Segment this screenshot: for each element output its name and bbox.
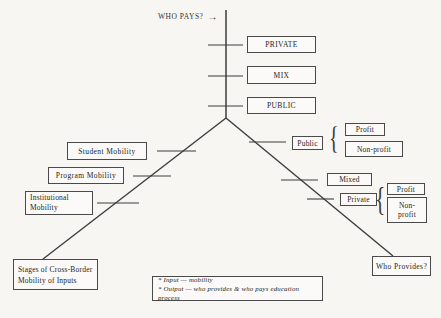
private-profit-box: Profit [387, 183, 425, 195]
who-pays-label: WHO PAYS? [158, 12, 203, 21]
private-nonprofit-box: Non-profit [387, 197, 427, 223]
public-nonprofit-box: Non-profit [345, 141, 403, 157]
legend-note-box: * Input — mobility * Output — who provid… [152, 276, 323, 301]
legend-line-input: * Input — mobility [158, 275, 213, 284]
who-pays-title: WHO PAYS? → [158, 11, 222, 22]
diagram-canvas: WHO PAYS? → PRIVATE MIX PUBLIC Student M… [0, 0, 441, 318]
right-arrow-icon: → [207, 11, 217, 22]
public-profit-box: Profit [345, 123, 385, 136]
program-mobility-box: Program Mobility [48, 167, 124, 184]
pay-level-mix-box: MIX [247, 66, 316, 84]
legend-line-output: * Output — who provides & who pays educa… [158, 284, 322, 302]
brace-icon-public: { [329, 123, 339, 154]
provider-public-box: Public [292, 136, 323, 150]
left-branch-line [43, 118, 226, 259]
pay-level-public-box: PUBLIC [247, 97, 316, 114]
brace-icon-private: { [375, 183, 385, 216]
who-provides-box: Who Provides? [372, 256, 431, 276]
provider-mixed-box: Mixed [327, 173, 372, 186]
stages-of-mobility-box: Stages of Cross-Border Mobility of Input… [13, 259, 98, 290]
institutional-mobility-box: Institutional Mobility [25, 191, 93, 215]
pay-level-private-box: PRIVATE [247, 36, 316, 53]
provider-private-box: Private [340, 193, 377, 206]
student-mobility-box: Student Mobility [67, 142, 147, 160]
